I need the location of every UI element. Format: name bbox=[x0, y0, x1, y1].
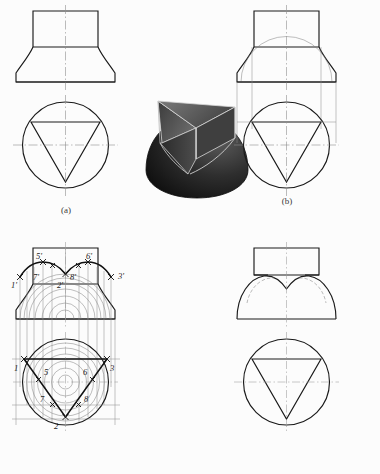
panel-d: (d) bbox=[190, 237, 380, 474]
label-5: 5 bbox=[44, 367, 48, 377]
figure-sheet: (a) bbox=[0, 0, 380, 474]
label-1-prime: 1' bbox=[11, 280, 17, 290]
panel-c-drawing: 5' 6' 1' 7' 2' 8' 3' bbox=[0, 237, 190, 474]
panel-b-top-view bbox=[234, 95, 339, 196]
label-3-prime: 3' bbox=[117, 271, 124, 281]
label-2: 2 bbox=[54, 421, 59, 431]
label-5-prime: 5' bbox=[36, 251, 42, 261]
panel-b: (b) bbox=[190, 0, 380, 237]
panel-d-front-view bbox=[237, 242, 336, 329]
panel-b-caption: (b) bbox=[267, 196, 307, 206]
panel-a-top-view bbox=[13, 95, 118, 196]
label-3: 3 bbox=[109, 363, 114, 373]
label-6: 6 bbox=[83, 367, 88, 377]
label-8-prime: 8' bbox=[70, 272, 76, 282]
panel-a-front-view bbox=[16, 5, 115, 90]
label-6-prime: 6' bbox=[86, 251, 92, 261]
panel-c-front-view: 5' 6' 1' 7' 2' 8' 3' bbox=[11, 242, 124, 329]
label-7: 7 bbox=[40, 394, 45, 404]
panel-c: 5' 6' 1' 7' 2' 8' 3' bbox=[0, 237, 190, 474]
panel-a-caption: (a) bbox=[46, 205, 86, 215]
label-7-prime: 7' bbox=[33, 272, 39, 282]
panel-d-top-view bbox=[234, 332, 339, 433]
label-1: 1 bbox=[14, 363, 18, 373]
label-2-prime: 2' bbox=[57, 280, 63, 290]
panel-d-drawing bbox=[190, 237, 380, 474]
